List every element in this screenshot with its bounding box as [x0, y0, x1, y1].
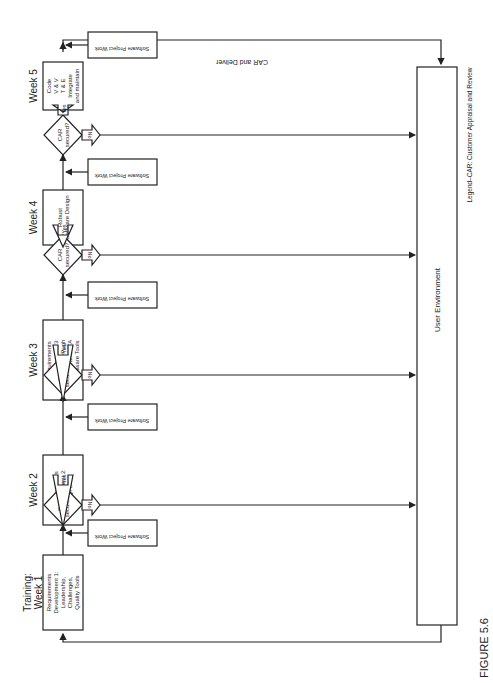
stage-box-text: and maintain — [74, 69, 80, 103]
stage-week-5: CodeV & VT & EIntegrateand maintainWeek … — [28, 62, 84, 110]
stage-title: Week 1 — [33, 575, 44, 609]
stage-box-text: Robust — [57, 208, 63, 227]
stage-box-text: Challenges, — [67, 576, 73, 608]
no-label: No — [87, 501, 93, 508]
software-project-work-2: Software Project Work — [66, 404, 157, 430]
feedback-loop — [63, 625, 441, 642]
no-label: No — [87, 371, 93, 378]
stage-title: Week 3 — [28, 343, 39, 377]
decision-car-secured-2: CARsecured?YesNo — [44, 344, 415, 455]
software-project-work-3: Software Project Work — [66, 282, 157, 308]
stage-title: Week 4 — [28, 200, 39, 234]
software-project-work-5: Software Project Work — [66, 32, 157, 58]
user-environment-label: User Environment — [433, 267, 442, 332]
decision-text: CAR — [57, 248, 63, 261]
stage-title: Week 5 — [28, 69, 39, 103]
decision-text: secured? — [64, 242, 70, 267]
car-and-deliver-label: CAR and Deliver — [215, 59, 268, 66]
stage-box-text: Development 1: — [53, 571, 59, 613]
stage-title: Week 2 — [28, 473, 39, 507]
no-label: No — [87, 131, 93, 138]
stage-box-text: Code — [46, 78, 52, 93]
stage-week-4: RobustSoftware DesignWeek 4 — [28, 190, 84, 245]
stage-week-1: RequirementsDevelopment 1:Leadership,Cha… — [22, 555, 83, 630]
stage-box-text: Requirements — [46, 574, 52, 611]
software-project-work-label: Software Project Work — [94, 173, 149, 179]
flow-diagram: User Environment Legend–CAR: Customer Ap… — [0, 0, 493, 683]
decision-text: CAR — [57, 128, 63, 141]
stage-box-text: Leadership, — [60, 576, 66, 608]
yes-label: Yes — [61, 474, 67, 483]
decision-text: secured? — [64, 122, 70, 147]
software-project-work-label: Software Project Work — [94, 418, 149, 424]
software-project-work-4: Software Project Work — [66, 159, 157, 185]
no-label: No — [87, 251, 93, 258]
figure-label: FIGURE 5.6 — [478, 618, 490, 678]
yes-label: Yes — [61, 344, 67, 353]
software-project-work-label: Software Project Work — [94, 534, 149, 540]
stage-title: Training: — [22, 573, 33, 612]
software-project-work-label: Software Project Work — [94, 296, 149, 302]
stage-box-text: T & E — [60, 79, 66, 94]
stage-box-text: V & V — [53, 78, 59, 93]
legend-text: Legend–CAR: Customer Appraisal and Revie… — [466, 67, 474, 202]
yes-label: Yes — [61, 224, 67, 233]
software-project-work-label: Software Project Work — [94, 46, 149, 52]
yes-label: Yes — [61, 104, 67, 113]
stage-box-text: Quality Tools — [74, 575, 80, 609]
stage-box-text: Integrate — [67, 73, 73, 97]
user-environment-box: User Environment — [417, 67, 457, 625]
